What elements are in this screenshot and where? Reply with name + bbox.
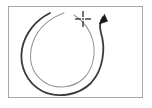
crosshair-marker [75, 11, 91, 27]
inner-gesture-stroke [30, 13, 94, 87]
gesture-canvas [0, 0, 152, 108]
screenshot-root: Counter-clockwise circular mouse gesture… [0, 0, 152, 108]
gesture-arrowhead [99, 14, 107, 24]
crosshair-center-dot [82, 18, 84, 20]
outer-gesture-stroke [21, 13, 103, 95]
